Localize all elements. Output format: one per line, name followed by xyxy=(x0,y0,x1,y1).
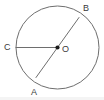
label-b: B xyxy=(83,3,89,13)
circle-geometry-figure: B C A O xyxy=(0,0,104,100)
label-c: C xyxy=(4,42,11,52)
bottom-edge-band xyxy=(0,97,104,100)
label-o: O xyxy=(62,44,69,54)
geometry-canvas: B C A O xyxy=(0,0,104,100)
label-a: A xyxy=(31,87,37,97)
center-point-dot xyxy=(55,45,59,49)
